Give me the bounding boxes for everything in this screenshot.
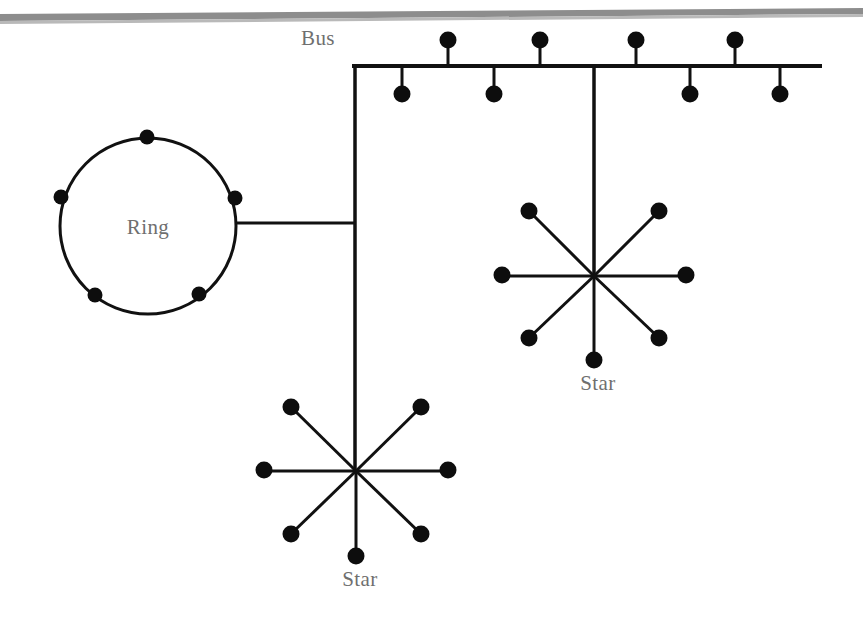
star-top-node (586, 352, 603, 369)
ring-topology: Ring (54, 130, 357, 315)
star-bottom-node (256, 462, 273, 479)
bus-node (682, 86, 699, 103)
bus-node (394, 86, 411, 103)
bus-node (628, 32, 645, 49)
star-bottom-label: Star (342, 567, 377, 591)
topology-canvas: Bus Ring (0, 0, 863, 626)
star-top-spoke-sw (530, 276, 594, 337)
bus-node (727, 32, 744, 49)
star-top-node (521, 203, 538, 220)
topology-diagram: Bus Ring (0, 0, 863, 626)
star-bottom-node (413, 526, 430, 543)
bus-stubs-down (402, 66, 780, 93)
star-bottom-spoke-sw (292, 471, 356, 533)
bus-node (440, 32, 457, 49)
star-top-spoke-ne (594, 212, 658, 276)
star-bottom-spoke-se (356, 471, 420, 533)
bus-stubs-up (448, 41, 735, 66)
star-top-node (678, 267, 695, 284)
ring-label: Ring (127, 215, 170, 239)
star-top-spoke-nw (530, 212, 594, 276)
bus-label: Bus (301, 26, 335, 50)
star-bottom-node (283, 399, 300, 416)
bus-node (486, 86, 503, 103)
star-top-node (651, 203, 668, 220)
ring-node (88, 288, 103, 303)
star-bottom-node (283, 526, 300, 543)
star-bottom-spoke-ne (356, 408, 420, 471)
star-bottom-node (440, 462, 457, 479)
star-bottom-spoke-nw (292, 408, 356, 471)
ring-node (140, 130, 155, 145)
ring-node (228, 191, 243, 206)
scan-artifact-bar (0, 8, 863, 24)
bus-trunks (355, 66, 594, 471)
ring-node (192, 287, 207, 302)
star-bottom-node (348, 548, 365, 565)
bus-topology: Bus (301, 26, 822, 103)
bus-node (772, 86, 789, 103)
star-top-spoke-se (594, 276, 658, 337)
star-top-label: Star (580, 371, 615, 395)
star-top-node (494, 267, 511, 284)
star-top-node (651, 330, 668, 347)
bus-node (532, 32, 549, 49)
star-bottom-node (413, 399, 430, 416)
ring-node (54, 190, 69, 205)
star-top-node (521, 330, 538, 347)
